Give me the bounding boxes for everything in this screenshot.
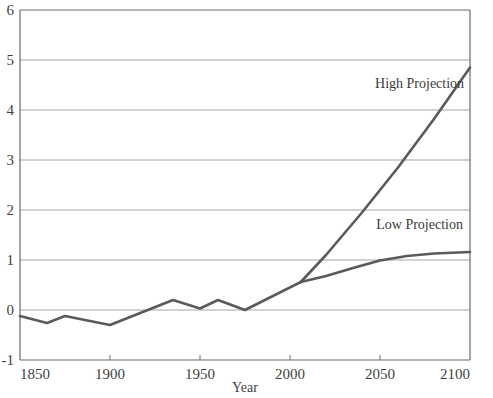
y-axis-tick-labels-group: -10123456 (2, 2, 15, 368)
y-tick-label-4: 4 (7, 102, 15, 118)
x-tick-label-1850: 1850 (20, 366, 50, 382)
y-tick-label--1: -1 (2, 352, 15, 368)
y-tick-label-3: 3 (7, 152, 15, 168)
series-line-observed (20, 282, 301, 325)
x-tick-label-2100: 2100 (440, 366, 470, 382)
climate-projection-line-chart: -10123456 185019001950200020502100 High … (0, 0, 493, 398)
y-tick-label-1: 1 (7, 252, 15, 268)
y-tick-label-5: 5 (7, 52, 15, 68)
x-tick-label-2050: 2050 (365, 366, 395, 382)
y-tick-label-0: 0 (7, 302, 15, 318)
annotation-low-projection: Low Projection (376, 217, 463, 232)
x-axis-ticks-group (110, 355, 380, 360)
series-annotations-group: High ProjectionLow Projection (375, 76, 464, 233)
y-tick-label-2: 2 (7, 202, 15, 218)
series-line-high-projection (301, 68, 470, 283)
x-tick-label-2000: 2000 (275, 366, 305, 382)
axes-group (20, 10, 470, 360)
x-axis-title: Year (232, 380, 258, 395)
x-tick-label-1900: 1900 (95, 366, 125, 382)
y-tick-label-6: 6 (7, 2, 15, 18)
x-tick-label-1950: 1950 (185, 366, 215, 382)
chart-container: -10123456 185019001950200020502100 High … (0, 0, 493, 398)
data-series-group (20, 68, 470, 326)
annotation-high-projection: High Projection (375, 76, 464, 91)
